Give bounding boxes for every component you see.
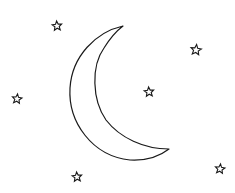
star-icon <box>144 87 153 96</box>
moon-stars-drawing <box>0 0 235 193</box>
star-icon <box>215 164 224 173</box>
star-icon <box>12 94 21 103</box>
star-icon <box>191 45 201 55</box>
star-icon <box>72 172 81 181</box>
crescent-moon-icon <box>70 26 169 160</box>
star-icon <box>52 21 61 30</box>
illustration-canvas <box>0 0 235 193</box>
